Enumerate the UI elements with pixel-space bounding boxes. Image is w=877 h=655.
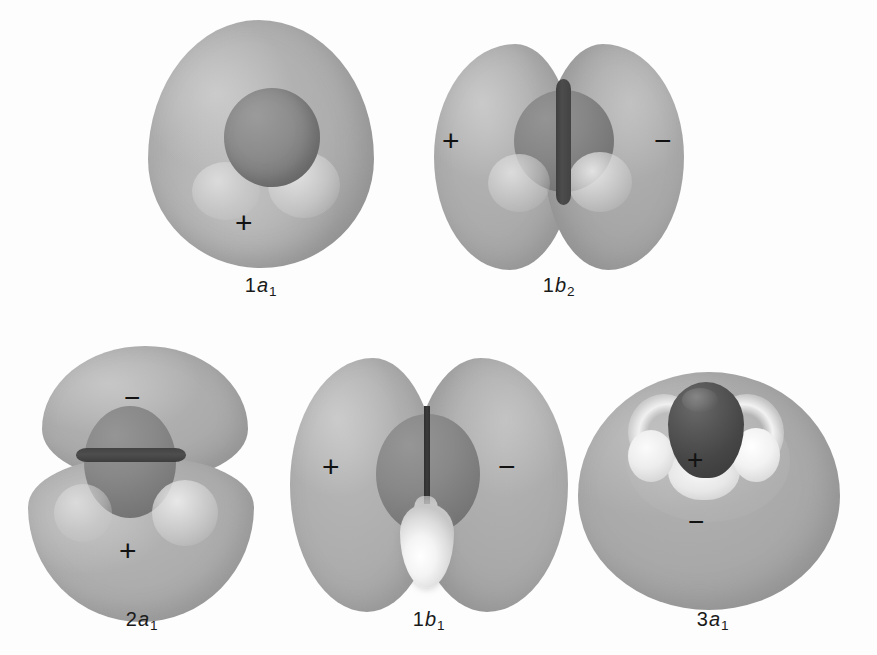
orbital-3a1-caption: 3a1	[570, 608, 856, 633]
sign-plus: +	[687, 446, 703, 474]
oxygen-atom	[224, 88, 320, 187]
orbital-2a1-caption: 2a1	[14, 608, 270, 633]
orbital-1b1-caption: 1b1	[280, 608, 578, 633]
sign-minus: −	[688, 508, 704, 536]
orbital-2a1: − + 2a1	[14, 340, 270, 640]
orbital-1a1-caption: 1a1	[118, 274, 404, 299]
sign-plus: +	[322, 452, 340, 482]
hydrogen-atom-left	[628, 430, 674, 482]
hydrogen-atom-right	[152, 480, 218, 546]
sign-plus: +	[119, 536, 137, 566]
oxygen-highlight	[682, 388, 718, 412]
sign-minus: −	[654, 126, 672, 156]
orbital-1b1: + − 1b1	[280, 348, 578, 648]
orbital-2a1-surface: − +	[14, 340, 270, 640]
orbital-3a1: + − 3a1	[570, 356, 856, 655]
hydrogen-atom-left	[54, 484, 112, 542]
orbital-1b1-surface: + −	[280, 348, 578, 648]
sign-plus: +	[442, 126, 460, 156]
orbital-1a1-surface: +	[118, 12, 404, 312]
nodal-plane-horizontal	[76, 448, 186, 462]
orbital-1b2: + − 1b2	[416, 22, 702, 322]
nodal-plane-vertical	[556, 79, 571, 205]
orbital-1a1: + 1a1	[118, 12, 404, 312]
hydrogen-atom-right	[568, 152, 632, 212]
sign-plus: +	[235, 208, 253, 238]
orbital-1b2-caption: 1b2	[416, 274, 702, 299]
molecular-orbital-figure: + 1a1 + − 1b2 − + 2a1	[0, 0, 877, 655]
hydrogen-atom-left	[488, 154, 550, 212]
sign-minus: −	[498, 452, 516, 482]
sign-minus: −	[124, 384, 140, 412]
